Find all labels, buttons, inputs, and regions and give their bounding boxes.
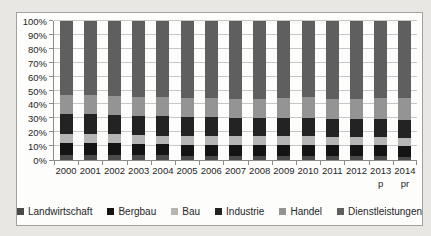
y-axis-tick (49, 34, 53, 35)
bar-segment-landwirtschaft (253, 156, 266, 160)
x-axis-label: 2010 (298, 165, 319, 176)
bar-segment-dienstleistungen (350, 21, 363, 99)
x-axis-label: 2001 (80, 165, 101, 176)
bar-segment-industrie (205, 117, 218, 136)
x-axis-label: 2009 (273, 165, 294, 176)
bar-segment-landwirtschaft (374, 156, 387, 160)
bar-segment-dienstleistungen (205, 21, 218, 98)
bar-segment-landwirtschaft (350, 156, 363, 160)
bar-segment-bau (253, 136, 266, 144)
x-axis-tick (223, 161, 224, 165)
bar-segment-dienstleistungen (229, 21, 242, 99)
bar-segment-bau (108, 134, 121, 143)
bar-2011 (326, 21, 339, 160)
legend-item-industrie: Industrie (215, 206, 264, 217)
x-axis-tick (344, 161, 345, 165)
bar-segment-handel (374, 98, 387, 119)
legend-label: Bergbau (118, 206, 156, 217)
bar-segment-handel (108, 96, 121, 115)
bar-2013 (374, 21, 387, 160)
legend-item-handel: Handel (279, 206, 322, 217)
bar-2009 (277, 21, 290, 160)
bar-segment-landwirtschaft (132, 155, 145, 160)
y-axis-label: 40% (28, 99, 47, 110)
x-axis-label: 2014 (394, 165, 415, 176)
x-axis-label: 2011 (322, 165, 342, 176)
bar-segment-dienstleistungen (302, 21, 315, 97)
bar-segment-industrie (132, 116, 145, 135)
y-axis-tick (49, 117, 53, 118)
y-axis-label: 10% (28, 141, 47, 152)
y-axis-tick (49, 145, 53, 146)
bar-segment-handel (398, 98, 411, 120)
bar-2008 (253, 21, 266, 160)
bar-segment-dienstleistungen (108, 21, 121, 96)
bar-segment-landwirtschaft (302, 156, 315, 160)
bar-segment-landwirtschaft (108, 155, 121, 160)
y-axis-label: 70% (28, 57, 47, 68)
x-axis-label: 2002 (104, 165, 125, 176)
legend-item-bergbau: Bergbau (107, 206, 156, 217)
legend-swatch-icon (337, 208, 344, 215)
bar-2006 (205, 21, 218, 160)
bar-segment-bau (302, 136, 315, 144)
bar-segment-industrie (229, 118, 242, 137)
y-axis-label: 90% (28, 29, 47, 40)
bar-2010 (302, 21, 315, 160)
bar-segment-handel (350, 99, 363, 119)
bar-2000 (60, 21, 73, 160)
bar-segment-handel (205, 98, 218, 117)
y-axis-label: 20% (28, 127, 47, 138)
bar-2007 (229, 21, 242, 160)
bar-segment-dienstleistungen (374, 21, 387, 98)
bar-segment-bergbau (374, 145, 387, 155)
legend-label: Bau (182, 206, 200, 217)
bar-segment-dienstleistungen (181, 21, 194, 98)
y-axis-label: 30% (28, 113, 47, 124)
y-axis-label: 80% (28, 43, 47, 54)
bar-segment-industrie (181, 117, 194, 136)
page: { "chart_data": { "type": "bar", "subtyp… (0, 0, 431, 236)
bar-segment-dienstleistungen (60, 21, 73, 95)
legend-swatch-icon (215, 208, 222, 215)
legend-item-dienstleistungen: Dienstleistungen (337, 206, 422, 217)
bar-segment-bergbau (60, 143, 73, 155)
bar-segment-dienstleistungen (326, 21, 339, 99)
bar-segment-handel (277, 98, 290, 117)
bar-segment-dienstleistungen (84, 21, 97, 95)
legend-label: Handel (290, 206, 322, 217)
chart-frame: 0%10%20%30%40%50%60%70%80%90%100%2000200… (16, 12, 423, 226)
x-axis-label: 2012 (346, 165, 367, 176)
bar-segment-industrie (350, 119, 363, 137)
x-axis-tick (416, 161, 417, 165)
bar-segment-handel (84, 95, 97, 114)
bar-segment-dienstleistungen (398, 21, 411, 98)
x-axis-label: 2004 (152, 165, 173, 176)
y-axis-tick (49, 20, 53, 21)
bar-segment-bau (132, 135, 145, 144)
bar-segment-bergbau (302, 145, 315, 156)
x-axis-tick (320, 161, 321, 165)
x-axis-sublabel: pr (401, 178, 409, 189)
bar-segment-industrie (108, 115, 121, 134)
bar-segment-handel (253, 99, 266, 118)
bar-segment-bau (277, 136, 290, 144)
legend-swatch-icon (107, 208, 114, 215)
legend-swatch-icon (279, 208, 286, 215)
y-axis-tick (49, 62, 53, 63)
bar-segment-industrie (84, 114, 97, 134)
bar-segment-bau (84, 134, 97, 143)
legend-label: Dienstleistungen (348, 206, 422, 217)
legend-item-bau: Bau (171, 206, 200, 217)
y-axis-label: 0% (33, 155, 47, 166)
bar-segment-bau (326, 137, 339, 145)
x-axis-label: 2006 (201, 165, 222, 176)
bar-segment-landwirtschaft (229, 156, 242, 160)
bar-2012 (350, 21, 363, 160)
bar-segment-industrie (398, 120, 411, 138)
bar-segment-landwirtschaft (181, 156, 194, 160)
y-axis-tick (49, 90, 53, 91)
bar-segment-industrie (302, 118, 315, 136)
bar-segment-industrie (156, 116, 169, 135)
bar-segment-bau (398, 138, 411, 146)
